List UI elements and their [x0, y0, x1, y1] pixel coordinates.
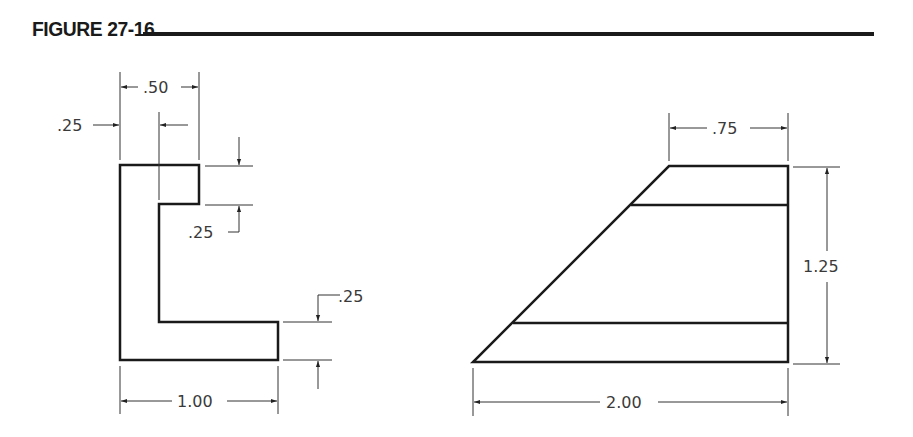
- dim-top-width-label: .50: [143, 78, 168, 97]
- dim-overall-width-label: 1.00: [177, 392, 213, 411]
- dim-bottom-thickness-label: .25: [338, 287, 363, 306]
- dim-inner-offset-label: .25: [57, 116, 82, 135]
- left-view: .50 .25 .25 .25 1.00: [57, 72, 363, 414]
- dim-right-height-label: 1.25: [803, 257, 839, 276]
- left-view-outline: [120, 165, 278, 360]
- right-view-outline: [473, 166, 788, 362]
- right-extension-lines: [473, 113, 840, 416]
- dim-bottom-thickness: [318, 295, 340, 389]
- dim-right-top-width-label: .75: [712, 119, 737, 138]
- left-extension-lines: [120, 72, 332, 414]
- dim-top-thickness: [228, 137, 239, 232]
- technical-drawing: .50 .25 .25 .25 1.00: [0, 0, 913, 437]
- dim-top-thickness-label: .25: [188, 223, 213, 242]
- right-view: .75 1.25 2.00: [473, 113, 840, 416]
- dim-right-overall-width-label: 2.00: [606, 393, 642, 412]
